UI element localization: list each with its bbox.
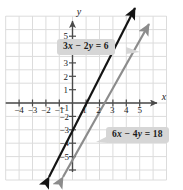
eq2-minus: − bbox=[124, 129, 130, 139]
y-axis-label: y bbox=[76, 6, 82, 17]
coordinate-graph: x y −4 −3 −2 −1 1 2 3 4 5 5 3 2 1 −1 −2 … bbox=[0, 0, 183, 190]
y-tick--4: −4 bbox=[59, 138, 69, 148]
x-tick-5: 5 bbox=[137, 105, 142, 115]
eq2-rhs: 18 bbox=[153, 129, 163, 139]
x-tick--3: −3 bbox=[28, 105, 38, 115]
y-tick--5: −5 bbox=[59, 152, 69, 162]
callout-tail-eq1 bbox=[126, 47, 140, 54]
eq1-equals: = bbox=[96, 41, 102, 51]
x-tick-2: 2 bbox=[96, 105, 101, 115]
y-tick-2: 2 bbox=[64, 72, 69, 82]
x-tick--2: −2 bbox=[41, 105, 51, 115]
equation-callout-second: 6x − 4y = 18 bbox=[106, 127, 169, 143]
x-tick-1: 1 bbox=[82, 105, 87, 115]
y-tick-labels-negative: −1 −2 −3 −4 −5 bbox=[59, 103, 69, 162]
x-axis-label: x bbox=[161, 91, 167, 102]
x-tick-3: 3 bbox=[110, 105, 115, 115]
eq1-rhs: 6 bbox=[104, 41, 109, 51]
x-tick--4: −4 bbox=[14, 105, 24, 115]
y-tick--2: −2 bbox=[59, 112, 69, 122]
eq1-var-x: x bbox=[68, 41, 73, 51]
eq2-var-y: y bbox=[138, 129, 142, 139]
x-tick-labels-negative: −4 −3 −2 −1 bbox=[14, 105, 64, 115]
y-tick--3: −3 bbox=[59, 125, 69, 135]
x-tick-4: 4 bbox=[124, 105, 129, 115]
equation-callout-first: 3x − 2y = 6 bbox=[57, 39, 115, 55]
eq2-var-x: x bbox=[117, 129, 122, 139]
eq1-minus: − bbox=[75, 41, 81, 51]
y-tick-3: 3 bbox=[64, 58, 69, 68]
graph-canvas: x y −4 −3 −2 −1 1 2 3 4 5 5 3 2 1 −1 −2 … bbox=[0, 0, 183, 190]
y-tick-1: 1 bbox=[64, 85, 69, 95]
eq2-equals: = bbox=[145, 129, 151, 139]
x-tick-labels-positive: 1 2 3 4 5 bbox=[82, 105, 142, 115]
eq1-var-y: y bbox=[89, 41, 93, 51]
